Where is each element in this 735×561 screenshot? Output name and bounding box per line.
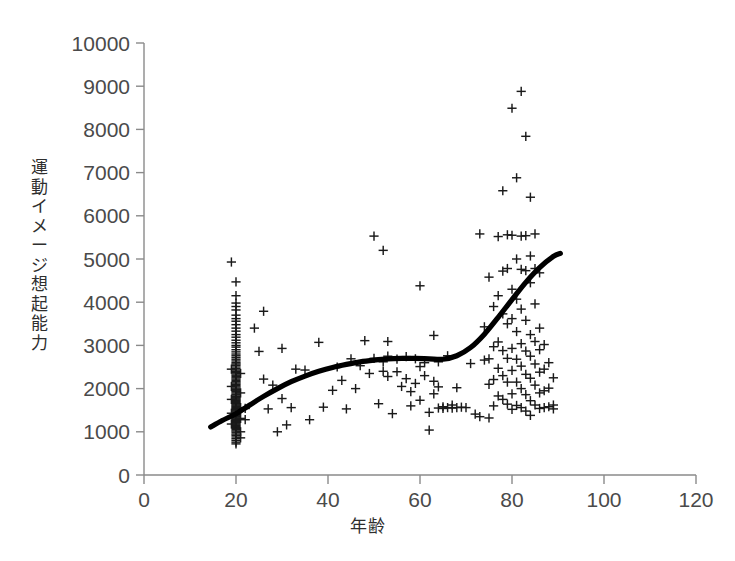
data-point-marker bbox=[383, 337, 392, 346]
x-tick-label: 40 bbox=[316, 488, 339, 511]
y-axis-title-char: 運 bbox=[26, 158, 52, 178]
data-point-marker bbox=[429, 389, 438, 398]
data-point-marker bbox=[517, 384, 526, 393]
data-point-marker bbox=[397, 382, 406, 391]
data-point-marker bbox=[411, 379, 420, 388]
data-point-marker bbox=[475, 229, 484, 238]
data-point-marker bbox=[517, 305, 526, 314]
data-point-marker bbox=[429, 377, 438, 386]
data-point-marker bbox=[503, 354, 512, 363]
y-tick-label: 1000 bbox=[83, 420, 130, 443]
y-axis-title-char: 能 bbox=[26, 314, 52, 334]
data-point-marker bbox=[494, 364, 503, 373]
y-axis-title-char: 動 bbox=[26, 178, 52, 198]
data-point-marker bbox=[517, 265, 526, 274]
data-point-marker bbox=[259, 374, 268, 383]
data-point-marker bbox=[512, 378, 521, 387]
data-point-marker bbox=[484, 354, 493, 363]
data-point-marker bbox=[503, 400, 512, 409]
data-point-marker bbox=[526, 251, 535, 260]
data-point-marker bbox=[544, 402, 553, 411]
x-tick-label: 100 bbox=[586, 488, 621, 511]
data-point-marker bbox=[388, 409, 397, 418]
y-axis-title-char: 起 bbox=[26, 295, 52, 315]
y-tick-label: 10000 bbox=[72, 32, 130, 55]
x-tick-label: 120 bbox=[678, 488, 713, 511]
data-point-marker bbox=[305, 415, 314, 424]
data-point-marker bbox=[526, 396, 535, 405]
data-point-marker bbox=[484, 380, 493, 389]
data-point-marker bbox=[319, 403, 328, 412]
data-point-marker bbox=[512, 327, 521, 336]
data-point-marker bbox=[526, 330, 535, 339]
data-point-marker bbox=[507, 344, 516, 353]
data-point-marker bbox=[544, 358, 553, 367]
y-tick-label: 3000 bbox=[83, 334, 130, 357]
data-point-marker bbox=[530, 337, 539, 346]
data-point-marker bbox=[535, 324, 544, 333]
data-point-marker bbox=[360, 336, 369, 345]
data-point-marker bbox=[461, 403, 470, 412]
data-point-marker bbox=[480, 355, 489, 364]
y-axis-title-char: ジ bbox=[26, 256, 52, 276]
plot-canvas: 0100020003000400050006000700080009000100… bbox=[0, 0, 735, 561]
y-axis-title-char: ー bbox=[26, 236, 52, 256]
data-point-marker bbox=[379, 246, 388, 255]
data-point-marker bbox=[425, 425, 434, 434]
data-point-marker bbox=[379, 367, 388, 376]
y-axis-title-char: 力 bbox=[26, 334, 52, 354]
data-point-marker bbox=[494, 291, 503, 300]
data-point-marker bbox=[517, 87, 526, 96]
data-point-marker bbox=[540, 340, 549, 349]
data-point-marker bbox=[498, 346, 507, 355]
x-axis-title: 年齢 bbox=[0, 512, 735, 537]
x-axis-group: 020406080100120 bbox=[138, 475, 713, 511]
data-point-marker bbox=[489, 302, 498, 311]
data-point-marker bbox=[521, 346, 530, 355]
data-point-marker bbox=[521, 266, 530, 275]
data-point-marker bbox=[484, 273, 493, 282]
data-point-marker bbox=[254, 347, 263, 356]
x-tick-label: 80 bbox=[500, 488, 523, 511]
y-tick-label: 7000 bbox=[83, 161, 130, 184]
data-point-marker bbox=[374, 399, 383, 408]
data-point-marker bbox=[494, 232, 503, 241]
scatter-plot-figure: 0100020003000400050006000700080009000100… bbox=[0, 0, 735, 561]
data-point-marker bbox=[259, 307, 268, 316]
data-point-marker bbox=[241, 415, 250, 424]
data-points-group bbox=[227, 87, 558, 449]
data-point-marker bbox=[530, 229, 539, 238]
data-point-marker bbox=[517, 339, 526, 348]
data-point-marker bbox=[526, 193, 535, 202]
data-point-marker bbox=[498, 186, 507, 195]
data-point-marker bbox=[535, 388, 544, 397]
data-point-marker bbox=[489, 342, 498, 351]
data-point-marker bbox=[342, 404, 351, 413]
y-axis-title-char: メ bbox=[26, 217, 52, 237]
data-point-marker bbox=[466, 359, 475, 368]
data-point-marker bbox=[489, 375, 498, 384]
data-point-marker bbox=[282, 420, 291, 429]
data-point-marker bbox=[277, 344, 286, 353]
data-point-marker bbox=[369, 232, 378, 241]
data-point-marker bbox=[507, 366, 516, 375]
data-point-marker bbox=[521, 132, 530, 141]
data-point-marker bbox=[512, 254, 521, 263]
data-point-marker bbox=[415, 396, 424, 405]
y-tick-label: 2000 bbox=[83, 377, 130, 400]
y-axis-title-char: イ bbox=[26, 197, 52, 217]
data-point-marker bbox=[498, 371, 507, 380]
data-point-marker bbox=[507, 104, 516, 113]
y-tick-label: 6000 bbox=[83, 204, 130, 227]
y-axis-group: 0100020003000400050006000700080009000100… bbox=[72, 32, 144, 487]
data-point-marker bbox=[503, 319, 512, 328]
data-point-marker bbox=[277, 394, 286, 403]
y-tick-label: 9000 bbox=[83, 75, 130, 98]
data-point-marker bbox=[507, 231, 516, 240]
data-point-marker bbox=[530, 359, 539, 368]
data-point-marker bbox=[287, 403, 296, 412]
data-point-marker bbox=[337, 376, 346, 385]
data-point-marker bbox=[521, 231, 530, 240]
data-point-marker bbox=[227, 257, 236, 266]
data-point-marker bbox=[264, 404, 273, 413]
